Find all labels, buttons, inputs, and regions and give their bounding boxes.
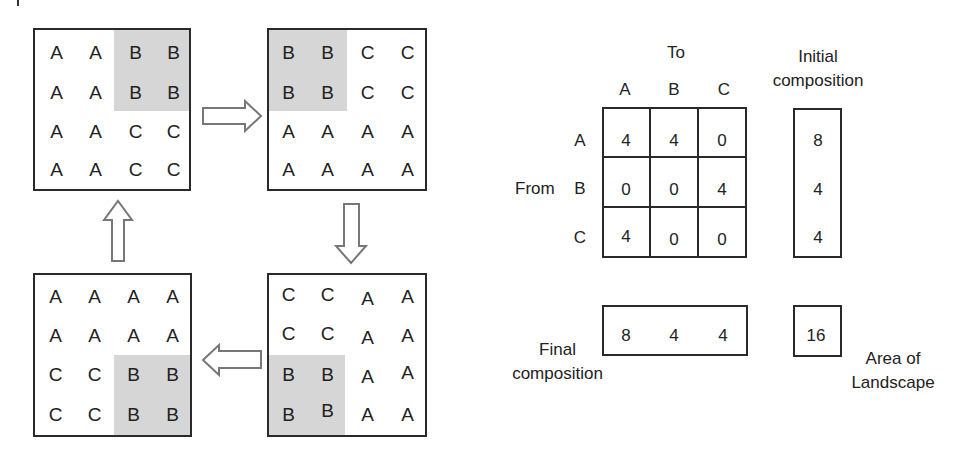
arrow-down-icon [334, 202, 368, 266]
grid-cell: B [116, 33, 155, 73]
grid-cell: B [308, 391, 347, 431]
grid-cell: A [388, 353, 427, 393]
grid-cell: B [308, 355, 347, 395]
final-value-c: 4 [699, 326, 747, 346]
grid-cell: A [308, 112, 347, 152]
landscape-area-label: Area of Landscape [838, 347, 948, 395]
arrow-left-icon [200, 343, 264, 377]
final-composition-label: Final composition [500, 338, 615, 386]
grid-cell: C [388, 73, 427, 113]
grid-cell: A [36, 316, 75, 356]
landscape-grid-bottom-right: C C A A C C A A B B A A B B A A [267, 273, 427, 437]
grid-cell: A [37, 33, 76, 73]
grid-cell: A [348, 150, 387, 190]
grid-cell: B [114, 395, 153, 435]
landscape-grid-top-right: B B C C B B C C A A A A A A A A [267, 28, 427, 191]
grid-cell: A [388, 277, 427, 317]
grid-cell: B [308, 33, 347, 73]
grid-cell: A [76, 33, 115, 73]
final-label-line1: Final [500, 338, 615, 362]
matrix-cell-c-c: 0 [698, 230, 746, 250]
grid-cell: A [76, 112, 115, 152]
matrix-cell-c-b: 0 [650, 230, 698, 250]
grid-cell: B [269, 33, 308, 73]
grid-cell: C [36, 395, 75, 435]
landscape-area-value: 16 [792, 326, 840, 346]
grid-cell: B [116, 73, 155, 113]
grid-cell: A [388, 395, 427, 435]
arrow-up-icon [101, 198, 135, 264]
grid-cell: A [37, 73, 76, 113]
landscape-grid-top-left: A A B B A A B B A A C C A A C C [33, 28, 191, 191]
grid-cell: A [269, 112, 308, 152]
initial-label-line2: composition [758, 69, 878, 93]
matrix-cell-b-c: 4 [698, 180, 746, 200]
initial-composition-label: Initial composition [758, 45, 878, 93]
grid-cell: B [154, 33, 193, 73]
grid-cell: B [114, 355, 153, 395]
grid-cell: C [75, 395, 114, 435]
final-value-b: 4 [650, 326, 698, 346]
arrow-right-icon [200, 98, 264, 134]
final-label-line2: composition [500, 362, 615, 386]
from-label: From [515, 179, 555, 199]
grid-cell: A [37, 112, 76, 152]
grid-cell: C [154, 112, 193, 152]
grid-cell: A [388, 150, 427, 190]
grid-cell: C [116, 150, 155, 190]
grid-cell: A [76, 73, 115, 113]
grid-cell: A [388, 112, 427, 152]
grid-cell: A [348, 112, 387, 152]
grid-cell: C [348, 73, 387, 113]
grid-cell: A [114, 316, 153, 356]
initial-value-c: 4 [794, 228, 842, 248]
grid-cell: A [348, 279, 387, 319]
matrix-divider [602, 156, 747, 158]
initial-label-line1: Initial [758, 45, 878, 69]
grid-cell: C [348, 33, 387, 73]
grid-cell: C [308, 275, 347, 315]
grid-cell: A [114, 277, 153, 317]
matrix-divider [602, 206, 747, 208]
grid-cell: A [153, 316, 192, 356]
matrix-cell-b-b: 0 [650, 180, 698, 200]
column-header-b: B [659, 80, 689, 100]
grid-cell: A [75, 316, 114, 356]
initial-value-a: 8 [794, 131, 842, 151]
grid-cell: A [76, 150, 115, 190]
grid-cell: A [153, 277, 192, 317]
grid-cell: A [348, 395, 387, 435]
grid-cell: B [154, 73, 193, 113]
matrix-cell-a-c: 0 [698, 131, 746, 151]
grid-cell: A [75, 277, 114, 317]
grid-cell: C [269, 314, 308, 354]
initial-value-b: 4 [794, 180, 842, 200]
grid-cell: C [269, 275, 308, 315]
row-header-c: C [570, 228, 590, 248]
matrix-cell-a-b: 4 [650, 131, 698, 151]
grid-cell: B [269, 355, 308, 395]
grid-cell: A [308, 150, 347, 190]
grid-cell: A [269, 150, 308, 190]
grid-cell: A [388, 316, 427, 356]
grid-cell: C [308, 314, 347, 354]
row-header-b: B [570, 179, 590, 199]
grid-cell: B [153, 355, 192, 395]
area-label-line2: Landscape [838, 371, 948, 395]
corner-mark [17, 0, 19, 6]
grid-cell: A [348, 318, 387, 358]
area-label-line1: Area of [838, 347, 948, 371]
matrix-cell-a-a: 4 [602, 131, 650, 151]
matrix-cell-c-a: 4 [602, 227, 650, 247]
grid-cell: C [154, 150, 193, 190]
column-header-a: A [610, 80, 640, 100]
landscape-grid-bottom-left: A A A A A A A A C C B B C C B B [33, 273, 192, 437]
column-header-c: C [709, 80, 739, 100]
grid-cell: A [36, 277, 75, 317]
grid-cell: C [36, 355, 75, 395]
to-label: To [656, 43, 696, 63]
row-header-a: A [570, 131, 590, 151]
grid-cell: B [153, 395, 192, 435]
grid-cell: C [388, 33, 427, 73]
grid-cell: B [269, 73, 308, 113]
